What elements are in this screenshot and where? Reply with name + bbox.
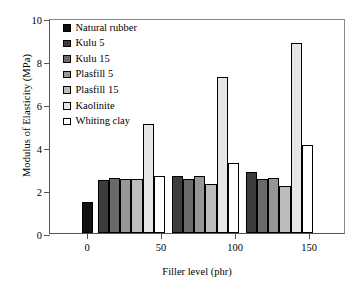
bar-kulu-5-150 bbox=[246, 172, 257, 233]
legend-item-plasfill-15: Plasfill 15 bbox=[63, 82, 137, 98]
legend-item-kaolinite: Kaolinite bbox=[63, 98, 137, 114]
y-tick-label: 8 bbox=[37, 58, 42, 69]
bar-kulu-15-50 bbox=[109, 178, 120, 233]
bar-whiting-clay-150 bbox=[302, 145, 313, 233]
bar-plasfill-15-100 bbox=[205, 184, 216, 233]
bar-kulu-5-50 bbox=[98, 180, 109, 233]
legend-item-plasfill-5: Plasfill 5 bbox=[63, 67, 137, 83]
bar-kulu-5-100 bbox=[172, 176, 183, 233]
chart-figure: Modulus of Elasticity (MPa) 0246810 0501… bbox=[0, 0, 363, 288]
x-tick-label: 100 bbox=[227, 242, 243, 253]
legend-label: Plasfill 5 bbox=[76, 69, 114, 80]
x-tick-label: 50 bbox=[156, 242, 167, 253]
legend-swatch-icon bbox=[63, 86, 71, 94]
bar-whiting-clay-100 bbox=[228, 163, 239, 233]
legend-label: Natural rubber bbox=[76, 23, 138, 34]
legend-item-kulu-15: Kulu 15 bbox=[63, 51, 137, 67]
x-tick-mark bbox=[235, 233, 236, 239]
legend-label: Kulu 15 bbox=[76, 54, 110, 65]
bar-kaolinite-100 bbox=[217, 77, 228, 233]
chart-legend: Natural rubberKulu 5Kulu 15Plasfill 5Pla… bbox=[63, 20, 137, 129]
bar-whiting-clay-50 bbox=[154, 176, 165, 233]
legend-swatch-icon bbox=[63, 118, 71, 126]
bar-kaolinite-50 bbox=[143, 124, 154, 233]
legend-swatch-icon bbox=[63, 55, 71, 63]
y-tick-mark bbox=[44, 235, 50, 236]
bar-kulu-15-150 bbox=[257, 179, 268, 233]
legend-label: Kaolinite bbox=[76, 101, 115, 112]
x-tick-mark bbox=[161, 233, 162, 239]
bar-kulu-15-100 bbox=[183, 179, 194, 233]
legend-label: Plasfill 15 bbox=[76, 85, 119, 96]
bar-plasfill-5-50 bbox=[120, 179, 131, 233]
y-tick-label: 4 bbox=[37, 144, 42, 155]
x-tick-label: 0 bbox=[84, 242, 89, 253]
legend-label: Kulu 5 bbox=[76, 38, 105, 49]
x-tick-mark bbox=[87, 233, 88, 239]
legend-label: Whiting clay bbox=[76, 116, 131, 127]
bar-plasfill-15-150 bbox=[279, 186, 290, 233]
y-tick-label: 2 bbox=[37, 187, 42, 198]
x-tick-mark bbox=[309, 233, 310, 239]
legend-item-whiting-clay: Whiting clay bbox=[63, 114, 137, 130]
legend-swatch-icon bbox=[63, 24, 71, 32]
y-tick-label: 0 bbox=[37, 230, 42, 241]
bar-kaolinite-150 bbox=[291, 43, 302, 233]
legend-swatch-icon bbox=[63, 102, 71, 110]
bar-plasfill-15-50 bbox=[131, 179, 142, 233]
y-tick-label: 6 bbox=[37, 101, 42, 112]
bar-plasfill-5-100 bbox=[194, 176, 205, 233]
y-tick-label: 10 bbox=[32, 15, 43, 26]
legend-swatch-icon bbox=[63, 40, 71, 48]
bar-natural-rubber-0 bbox=[82, 202, 93, 233]
y-axis-title: Modulus of Elasticity (MPa) bbox=[21, 16, 32, 216]
x-tick-label: 150 bbox=[301, 242, 317, 253]
legend-item-natural-rubber: Natural rubber bbox=[63, 20, 137, 36]
bar-plasfill-5-150 bbox=[268, 178, 279, 233]
x-axis-title: Filler level (phr) bbox=[49, 266, 345, 277]
legend-swatch-icon bbox=[63, 71, 71, 79]
legend-item-kulu-5: Kulu 5 bbox=[63, 36, 137, 52]
